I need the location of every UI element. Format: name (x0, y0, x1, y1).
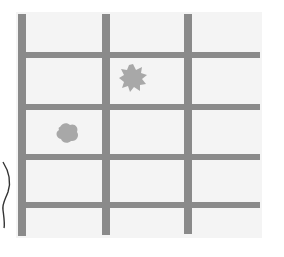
vertical-grid-line (184, 14, 192, 234)
horizontal-grid-line (18, 202, 260, 208)
horizontal-grid-line (18, 154, 260, 160)
horizontal-grid-line (18, 104, 260, 110)
rounded-blob-icon (54, 121, 80, 145)
spiky-blob-icon (117, 62, 149, 94)
horizontal-grid-line (18, 52, 260, 58)
squiggle-mark-icon (0, 160, 14, 230)
